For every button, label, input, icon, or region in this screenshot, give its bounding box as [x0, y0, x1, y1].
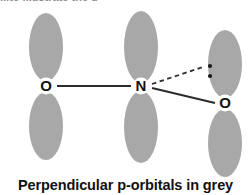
atom-label-n: N — [136, 77, 147, 94]
atom-label-o-right: O — [219, 94, 231, 111]
orbital-lobe-o-left-upper — [29, 13, 63, 81]
figure-caption: Perpendicular p-orbitals in grey — [0, 177, 251, 193]
lone-pair-dot-upper — [208, 64, 212, 68]
bond-n-o-right — [152, 88, 215, 103]
orbital-lobe-o-left-lower — [29, 92, 63, 160]
atom-label-o-left: O — [40, 77, 52, 94]
orbital-lobe-o-right-lower — [208, 109, 242, 177]
lone-pair-dot-lower — [208, 74, 212, 78]
orbital-diagram-figure: ...to illustrate the g — [0, 0, 251, 195]
molecule-diagram: O N O — [0, 0, 251, 195]
orbital-lobe-n-lower — [124, 91, 158, 163]
orbital-lobe-o-right-upper — [208, 30, 242, 98]
orbital-lobe-n-upper — [124, 11, 158, 83]
bond-n-lonepair-dashed — [152, 67, 203, 84]
orbital-lobes-group — [29, 11, 242, 177]
